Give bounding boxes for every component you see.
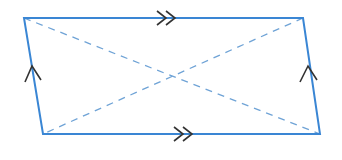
arrow-right-edge-icon [300,66,317,82]
parallelogram-diagram [0,0,342,160]
